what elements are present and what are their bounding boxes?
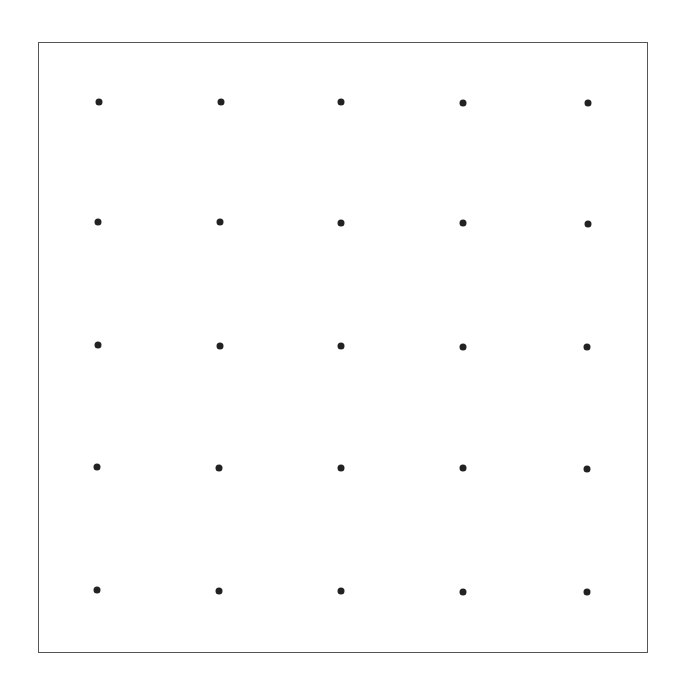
grid-dot-r4-c4 — [460, 465, 467, 472]
grid-dot-r1-c2 — [218, 99, 225, 106]
grid-dot-r3-c2 — [217, 343, 224, 350]
grid-dot-r5-c1 — [94, 587, 101, 594]
grid-dot-r1-c3 — [338, 99, 345, 106]
grid-dot-r5-c2 — [216, 588, 223, 595]
grid-dot-r3-c3 — [338, 343, 345, 350]
grid-dot-r4-c1 — [94, 464, 101, 471]
grid-dot-r4-c5 — [584, 466, 591, 473]
grid-dot-r1-c1 — [96, 99, 103, 106]
grid-dot-r2-c4 — [460, 220, 467, 227]
grid-dot-r2-c2 — [217, 219, 224, 226]
grid-dot-r4-c2 — [216, 465, 223, 472]
grid-dot-r3-c5 — [584, 344, 591, 351]
grid-dot-r5-c4 — [460, 589, 467, 596]
grid-dot-r5-c3 — [338, 588, 345, 595]
grid-dot-r1-c5 — [585, 100, 592, 107]
grid-dot-r5-c5 — [584, 589, 591, 596]
grid-dot-r3-c4 — [460, 344, 467, 351]
grid-dot-r2-c3 — [338, 220, 345, 227]
grid-dot-r1-c4 — [460, 100, 467, 107]
grid-dot-r2-c5 — [585, 221, 592, 228]
grid-dot-r3-c1 — [95, 342, 102, 349]
grid-dot-r2-c1 — [95, 219, 102, 226]
grid-dot-r4-c3 — [338, 465, 345, 472]
